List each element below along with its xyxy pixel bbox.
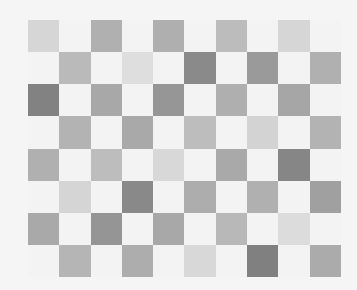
grid-cell [247,20,278,52]
grid-cell [28,149,59,181]
grid-cell [278,213,309,245]
grid-cell [216,84,247,116]
grid-cell [184,245,215,277]
grid-cell [278,149,309,181]
grid-cell [122,213,153,245]
grid-cell [59,213,90,245]
grid-cell [122,20,153,52]
grayscale-checkerboard-grid [28,20,341,277]
grid-cell [278,20,309,52]
grid-cell [122,84,153,116]
grid-cell [153,52,184,84]
grid-cell [184,149,215,181]
grid-cell [91,149,122,181]
grid-cell [91,20,122,52]
grid-cell [278,116,309,148]
grid-cell [153,84,184,116]
grid-cell [59,245,90,277]
grid-cell [153,20,184,52]
grid-cell [247,116,278,148]
grid-cell [216,213,247,245]
grid-cell [247,213,278,245]
grid-cell [184,52,215,84]
grid-cell [216,149,247,181]
grid-cell [28,245,59,277]
grid-cell [216,20,247,52]
grid-cell [122,52,153,84]
grid-cell [153,149,184,181]
grid-cell [310,52,341,84]
grid-cell [247,149,278,181]
grid-cell [28,116,59,148]
grid-cell [310,181,341,213]
grid-cell [59,20,90,52]
grid-cell [91,213,122,245]
grid-cell [28,213,59,245]
grid-cell [310,116,341,148]
grid-cell [247,52,278,84]
grid-cell [278,245,309,277]
grid-cell [216,52,247,84]
grid-cell [91,116,122,148]
grid-cell [153,181,184,213]
grid-cell [216,181,247,213]
grid-cell [59,116,90,148]
grid-cell [184,20,215,52]
grid-cell [28,20,59,52]
grid-cell [247,181,278,213]
grid-cell [184,181,215,213]
grid-cell [91,52,122,84]
grid-cell [28,84,59,116]
grid-cell [310,84,341,116]
grid-cell [153,213,184,245]
grid-cell [28,52,59,84]
grid-cell [122,181,153,213]
grid-cell [91,245,122,277]
grid-cell [184,213,215,245]
grid-cell [184,116,215,148]
grid-cell [153,116,184,148]
grid-cell [91,181,122,213]
grid-cell [278,84,309,116]
grid-cell [278,181,309,213]
grid-cell [310,213,341,245]
grid-cell [122,116,153,148]
grid-cell [28,181,59,213]
grid-cell [59,181,90,213]
grid-cell [122,245,153,277]
grid-cell [59,149,90,181]
grid-cell [59,84,90,116]
grid-cell [310,245,341,277]
grid-cell [153,245,184,277]
grid-cell [278,52,309,84]
grid-cell [122,149,153,181]
grid-cell [184,84,215,116]
grid-cell [310,20,341,52]
grid-cell [247,84,278,116]
grid-cell [59,52,90,84]
grid-cell [216,116,247,148]
grid-cell [216,245,247,277]
grid-cell [91,84,122,116]
grid-cell [310,149,341,181]
grid-cell [247,245,278,277]
